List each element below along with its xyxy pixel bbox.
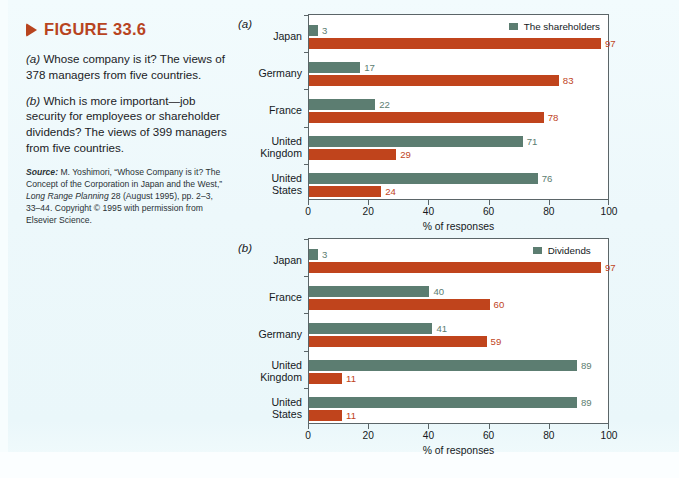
x-axis-tick (608, 424, 609, 429)
bar (309, 99, 375, 110)
category-label: UnitedKingdom (234, 360, 302, 384)
bar-value-label: 60 (494, 299, 505, 310)
figure-heading: FIGURE 33.6 (26, 20, 230, 39)
bar (309, 25, 318, 36)
bar (309, 323, 432, 334)
y-axis-tick (304, 89, 309, 90)
bar (309, 173, 538, 184)
bar (309, 136, 523, 147)
x-axis-tick-label: 20 (363, 206, 374, 217)
bar-value-label: 83 (563, 75, 574, 86)
x-axis-tick-label: 60 (483, 206, 494, 217)
x-axis-tick-label: 80 (543, 430, 554, 441)
bar (309, 62, 360, 73)
y-axis-tick (304, 313, 309, 314)
bar-value-label: 11 (346, 410, 356, 421)
bar-value-label: 41 (436, 323, 447, 334)
caption-paragraph-a: (a) Whose company is it? The views of 37… (26, 51, 230, 83)
category-label: UnitedKingdom (234, 136, 302, 160)
bar-value-label: 97 (605, 38, 616, 49)
bar (309, 186, 381, 197)
chart-b-category-labels: JapanFranceGermanyUnitedKingdomUnitedSta… (238, 238, 306, 424)
bar-value-label: 89 (581, 360, 592, 371)
bar (309, 38, 601, 49)
x-axis-tick (549, 424, 550, 429)
x-axis-tick-label: 60 (483, 430, 494, 441)
bar-value-label: 78 (548, 112, 559, 123)
chart-b-x-axis-title: % of responses (308, 445, 609, 456)
bar-value-label: 97 (605, 262, 616, 273)
triangle-right-icon (26, 23, 37, 37)
figure-caption-column: FIGURE 33.6 (a) Whose company is it? The… (26, 20, 230, 227)
chart-a-x-axis: % of responses 020406080100 (308, 200, 609, 234)
category-label: Japan (234, 255, 302, 267)
legend-label: Dividends (548, 245, 591, 256)
legend-item[interactable]: The shareholders (509, 21, 600, 32)
bar-value-label: 17 (364, 62, 375, 73)
chart-panel-b: (b) JapanFranceGermanyUnitedKingdomUnite… (238, 238, 658, 424)
bar (309, 360, 577, 371)
y-axis-tick (304, 127, 309, 128)
legend-label: The shareholders (524, 21, 600, 32)
y-axis-tick (304, 239, 309, 240)
x-axis-tick-label: 100 (601, 206, 618, 217)
legend-item[interactable]: Dividends (533, 245, 600, 256)
bar (309, 286, 429, 297)
bar (309, 249, 318, 260)
chart-a-x-axis-title: % of responses (308, 221, 609, 232)
category-label: France (234, 292, 302, 304)
bar (309, 410, 342, 421)
bar-value-label: 22 (379, 99, 390, 110)
bar (309, 149, 396, 160)
bar (309, 373, 342, 384)
caption-a-label: (a) (26, 52, 40, 65)
y-axis-tick (304, 15, 309, 16)
bar-value-label: 24 (385, 186, 396, 197)
chart-b-x-axis: % of responses 020406080100 (308, 424, 609, 458)
x-axis-tick (428, 200, 429, 205)
y-axis-tick (304, 351, 309, 352)
x-axis-tick (489, 200, 490, 205)
legend-swatch-icon (509, 23, 518, 30)
y-axis-tick (304, 276, 309, 277)
x-axis-tick-label: 20 (363, 430, 374, 441)
bar-value-label: 29 (400, 149, 411, 160)
x-axis-tick (308, 200, 309, 205)
chart-b-plot-area: DividendsJob security 397406041598911891… (308, 238, 609, 424)
chart-panel-a: (a) JapanGermanyFranceUnitedKingdomUnite… (238, 14, 658, 200)
category-label: Japan (234, 31, 302, 43)
chart-a-category-labels: JapanGermanyFranceUnitedKingdomUnitedSta… (238, 14, 306, 200)
x-axis-tick-label: 0 (305, 430, 311, 441)
bar (309, 262, 601, 273)
bar (309, 397, 577, 408)
category-label: France (234, 105, 302, 117)
category-label: UnitedStates (234, 173, 302, 197)
figure-page: FIGURE 33.6 (a) Whose company is it? The… (0, 0, 679, 478)
x-axis-tick (368, 424, 369, 429)
x-axis-tick-label: 80 (543, 206, 554, 217)
x-axis-tick (428, 424, 429, 429)
y-axis-tick (304, 164, 309, 165)
y-axis-tick (304, 52, 309, 53)
bar-value-label: 59 (491, 336, 502, 347)
bar-value-label: 76 (542, 173, 553, 184)
y-axis-tick (304, 388, 309, 389)
caption-b-label: (b) (26, 94, 40, 107)
category-label: Germany (234, 68, 302, 80)
x-axis-tick (308, 424, 309, 429)
bar (309, 336, 487, 347)
caption-paragraph-b: (b) Which is more important—job security… (26, 93, 230, 156)
x-axis-tick-label: 0 (305, 206, 311, 217)
scan-edge-left (0, 0, 8, 478)
figure-title: FIGURE 33.6 (44, 20, 146, 39)
bar-value-label: 3 (322, 25, 327, 36)
legend-swatch-icon (533, 247, 542, 254)
bar-value-label: 11 (346, 373, 356, 384)
caption-b-text: Which is more important—job security for… (26, 94, 227, 154)
x-axis-tick (489, 424, 490, 429)
bar (309, 112, 544, 123)
bar-value-label: 89 (581, 397, 592, 408)
chart-a-plot-area: The shareholdersAll stakeholders 3971783… (308, 14, 609, 200)
x-axis-tick-label: 40 (423, 206, 434, 217)
x-axis-tick-label: 100 (601, 430, 618, 441)
